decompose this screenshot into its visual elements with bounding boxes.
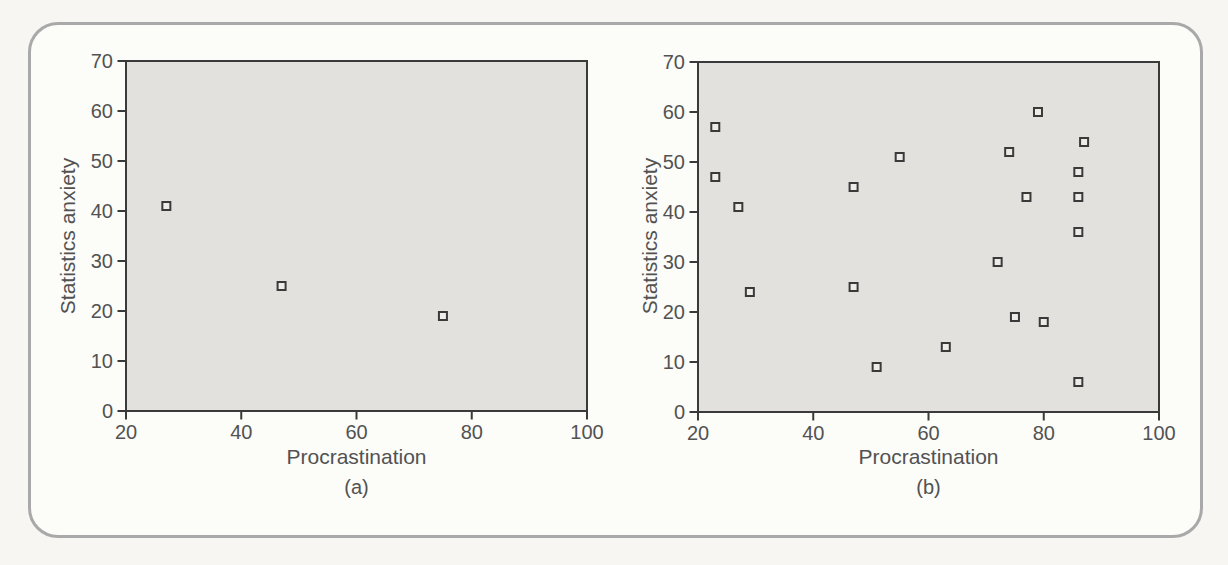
y-axis-label-b: Statistics anxiety	[639, 116, 661, 356]
subfigure-label-a: (a)	[126, 476, 587, 498]
figure-panel: 20406080100010203040506070 2040608010001…	[0, 0, 1228, 565]
x-axis-label-b: Procrastination	[698, 446, 1159, 468]
subfigure-label-b: (b)	[698, 476, 1159, 498]
y-axis-label-a: Statistics anxiety	[57, 116, 79, 356]
x-axis-label-a: Procrastination	[126, 446, 587, 468]
